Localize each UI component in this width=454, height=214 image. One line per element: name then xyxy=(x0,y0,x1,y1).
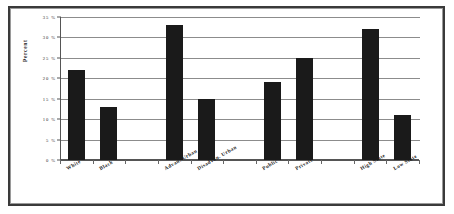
bar xyxy=(394,115,411,160)
y-tick-label: 5 % xyxy=(46,137,56,142)
x-tick-mark xyxy=(288,160,289,164)
x-axis-labels: WhiteBlackAdvan. UrbanDisadvan. UrbanPub… xyxy=(60,166,440,206)
x-tick-mark xyxy=(125,160,126,164)
y-tick-label: 15 % xyxy=(43,96,56,101)
x-tick-mark xyxy=(386,160,387,164)
x-tick-mark xyxy=(256,160,257,164)
x-tick-mark xyxy=(321,160,322,164)
bar xyxy=(296,58,313,160)
x-tick-mark xyxy=(191,160,192,164)
x-tick-mark xyxy=(158,160,159,164)
bar xyxy=(100,107,117,160)
x-tick-mark xyxy=(354,160,355,164)
y-tick-label: 10 % xyxy=(43,117,56,122)
x-tick-mark xyxy=(419,160,420,164)
y-tick-label: 25 % xyxy=(43,55,56,60)
bar xyxy=(166,25,183,160)
bar xyxy=(198,99,215,160)
y-tick-label: 20 % xyxy=(43,76,56,81)
y-tick-label: 30 % xyxy=(43,35,56,40)
x-tick-mark xyxy=(93,160,94,164)
y-axis-title: Percent xyxy=(22,40,28,62)
y-tick-label: 0 % xyxy=(46,158,56,163)
plot-wrapper: Percent 35 %30 %25 %20 %15 %10 %5 %0 % W… xyxy=(0,0,454,214)
bar xyxy=(362,29,379,160)
x-tick-mark xyxy=(60,160,61,164)
figure-container: Percent 35 %30 %25 %20 %15 %10 %5 %0 % W… xyxy=(0,0,454,214)
bar xyxy=(264,82,281,160)
x-tick-mark xyxy=(223,160,224,164)
y-tick-label: 35 % xyxy=(43,15,56,20)
bars-layer xyxy=(60,17,419,160)
bar xyxy=(68,70,85,160)
